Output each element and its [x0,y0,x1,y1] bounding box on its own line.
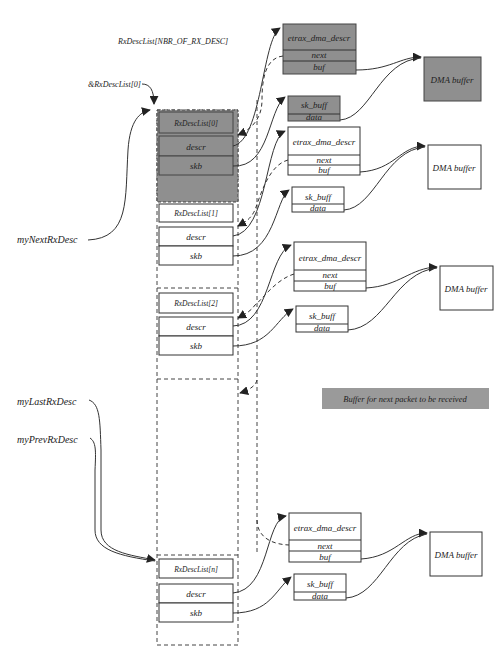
svg-text:buf: buf [313,62,326,72]
svg-text:etrax_dma_descr: etrax_dma_descr [299,253,362,263]
first-ptr-label: &RxDescList[0] [88,80,141,89]
svg-text:sk_buff: sk_buff [301,100,328,110]
svg-text:data: data [314,323,331,333]
my-next-rx-desc-arrow [88,110,150,240]
svg-text:next: next [317,155,332,165]
dma-buffer-0: DMA buffer [424,57,481,101]
sk-buff-1: sk_buff data [292,187,344,213]
my-last-rx-desc-label: myLastRxDesc [17,396,77,407]
svg-text:next: next [323,270,338,280]
svg-text:next: next [318,541,333,551]
svg-text:RxDescList[0]: RxDescList[0] [173,119,218,128]
legend-text: Buffer for next packet to be received [343,394,467,404]
svg-text:RxDescList[2]: RxDescList[2] [173,299,218,308]
dma-buffer-2: DMA buffer [440,266,493,310]
svg-text:sk_buff: sk_buff [307,579,334,589]
svg-text:skb: skb [190,608,202,618]
my-prev-rx-desc-arrow [90,438,155,561]
svg-text:RxDescList[n]: RxDescList[n] [173,565,218,574]
array-label: RxDescList[NBR_OF_RX_DESC] [117,37,228,46]
svg-text:DMA buffer: DMA buffer [433,550,478,560]
svg-text:etrax_dma_descr: etrax_dma_descr [294,523,357,533]
descriptor-0: RxDescList[0] descr skb [157,110,238,202]
dma-buffer-1: DMA buffer [428,145,481,189]
dma-descr-n: etrax_dma_descr next buf [289,513,361,562]
rx-descriptor-diagram: RxDescList[NBR_OF_RX_DESC] &RxDescList[0… [0,0,504,659]
svg-text:sk_buff: sk_buff [309,311,336,321]
svg-text:sk_buff: sk_buff [305,192,332,202]
dma-descr-2: etrax_dma_descr next buf [294,242,366,291]
svg-text:buf: buf [318,165,331,175]
svg-text:skb: skb [190,161,202,171]
dma-buffer-n: DMA buffer [430,532,482,576]
svg-text:RxDescList[1]: RxDescList[1] [173,209,218,218]
dma-descr-0: etrax_dma_descr next buf [283,24,356,74]
svg-text:skb: skb [190,251,202,261]
svg-text:DMA buffer: DMA buffer [443,284,488,294]
sk-buff-0: sk_buff data [288,96,340,122]
dma-descr-1: etrax_dma_descr next buf [288,127,360,175]
svg-text:etrax_dma_descr: etrax_dma_descr [293,137,356,147]
svg-text:data: data [306,112,323,122]
my-last-rx-desc-arrow [89,400,155,560]
svg-text:data: data [310,203,327,213]
svg-text:next: next [312,50,327,60]
my-next-rx-desc-label: myNextRxDesc [17,234,78,245]
svg-text:buf: buf [324,281,337,291]
descriptor-2: RxDescList[2] descr skb [157,293,238,379]
my-prev-rx-desc-label: myPrevRxDesc [17,434,78,445]
svg-text:buf: buf [319,552,332,562]
descriptor-1: RxDescList[1] descr skb [157,204,238,288]
first-ptr-arrow [142,84,154,104]
svg-text:skb: skb [190,341,202,351]
sk-buff-n: sk_buff data [294,574,346,601]
svg-text:data: data [312,591,329,601]
svg-text:etrax_dma_descr: etrax_dma_descr [288,33,351,43]
svg-text:descr: descr [186,142,206,152]
svg-text:descr: descr [186,322,206,332]
svg-text:descr: descr [186,232,206,242]
descriptor-n: RxDescList[n] descr skb [157,555,238,622]
svg-text:DMA buffer: DMA buffer [431,163,476,173]
sk-buff-2: sk_buff data [296,306,348,333]
svg-text:DMA buffer: DMA buffer [429,75,474,85]
svg-text:descr: descr [186,589,206,599]
